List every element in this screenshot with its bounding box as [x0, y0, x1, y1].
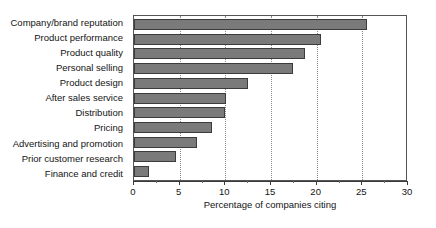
bar — [134, 19, 367, 30]
category-label: Advertising and promotion — [0, 136, 128, 151]
bar — [134, 122, 212, 133]
x-tick-label: 25 — [356, 187, 367, 197]
x-tick-label: 15 — [265, 187, 276, 197]
category-label: After sales service — [0, 90, 128, 105]
bar-row — [134, 164, 406, 179]
bar-row — [134, 61, 406, 76]
x-tick — [179, 181, 180, 185]
x-axis-title: Percentage of companies citing — [133, 200, 407, 210]
bar — [134, 93, 226, 104]
bar — [134, 107, 225, 118]
x-tick-minor — [247, 181, 248, 183]
bar — [134, 137, 197, 148]
bar — [134, 166, 149, 177]
bar-row — [134, 91, 406, 106]
x-axis: 051015202530 — [133, 181, 407, 182]
category-label: Company/brand reputation — [0, 15, 128, 30]
x-tick — [133, 181, 134, 185]
x-tick — [407, 181, 408, 185]
category-label: Product quality — [0, 45, 128, 60]
x-tick-label: 5 — [176, 187, 181, 197]
bar-row — [134, 105, 406, 120]
x-tick-minor — [339, 181, 340, 183]
category-label: Product design — [0, 75, 128, 90]
bar — [134, 34, 321, 45]
x-tick-label: 0 — [130, 187, 135, 197]
bar-row — [134, 46, 406, 61]
x-tick — [316, 181, 317, 185]
x-tick-label: 30 — [402, 187, 413, 197]
x-tick-minor — [156, 181, 157, 183]
x-tick-label: 10 — [219, 187, 230, 197]
bar — [134, 151, 176, 162]
x-tick-minor — [202, 181, 203, 183]
category-label: Product performance — [0, 30, 128, 45]
x-tick-minor — [384, 181, 385, 183]
bar — [134, 63, 293, 74]
category-label: Personal selling — [0, 60, 128, 75]
category-label: Pricing — [0, 121, 128, 136]
bar-row — [134, 32, 406, 47]
plot-area — [133, 15, 407, 181]
bar-row — [134, 17, 406, 32]
bar-chart: Company/brand reputation Product perform… — [0, 0, 436, 228]
bar — [134, 48, 305, 59]
category-label: Distribution — [0, 106, 128, 121]
bar-row — [134, 135, 406, 150]
bar-series — [134, 16, 406, 180]
bar-row — [134, 76, 406, 91]
x-tick — [224, 181, 225, 185]
x-tick-minor — [293, 181, 294, 183]
bar — [134, 78, 248, 89]
bar-row — [134, 120, 406, 135]
category-label: Prior customer research — [0, 151, 128, 166]
category-label: Finance and credit — [0, 166, 128, 181]
x-tick — [361, 181, 362, 185]
category-axis-labels: Company/brand reputation Product perform… — [0, 15, 128, 181]
bar-row — [134, 150, 406, 165]
x-tick — [270, 181, 271, 185]
x-tick-label: 20 — [310, 187, 321, 197]
